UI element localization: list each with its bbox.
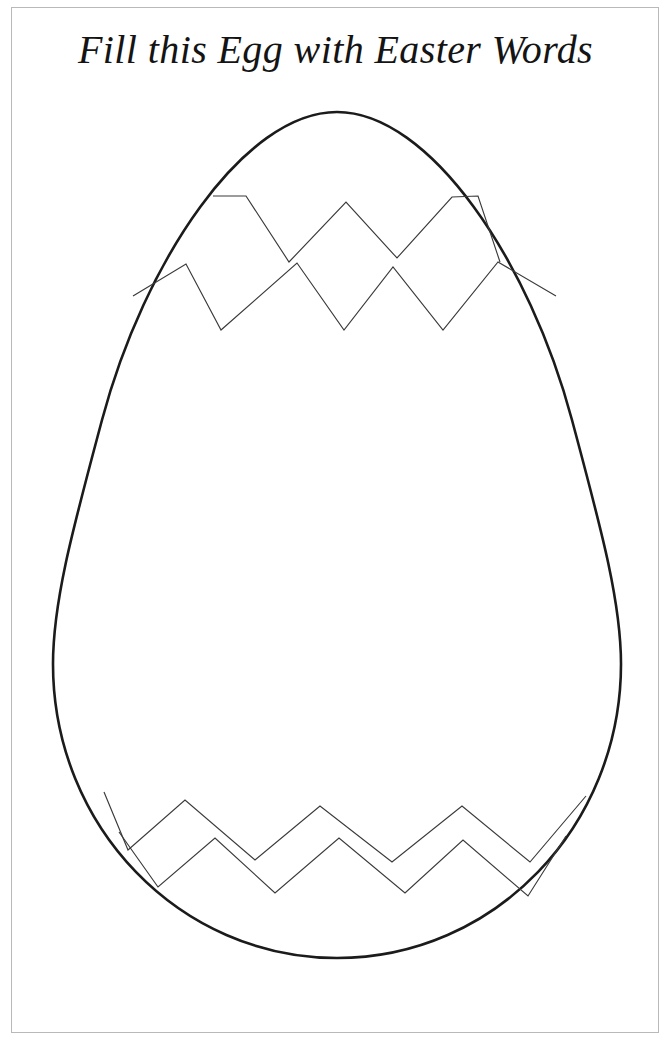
worksheet-page: Fill this Egg with Easter Words	[0, 0, 671, 1044]
egg-writing-area[interactable]	[70, 320, 600, 780]
